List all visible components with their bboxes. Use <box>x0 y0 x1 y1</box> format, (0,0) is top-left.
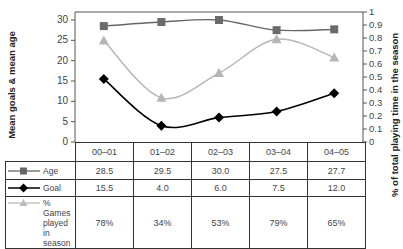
data-table: 00–01 01–02 02–03 03–04 04–05 Age 28.5 2… <box>5 142 366 249</box>
right-tick-label: 0.8 <box>369 33 393 43</box>
table-header-cell: 04–05 <box>308 143 366 162</box>
table-cell: 7.5 <box>250 180 308 197</box>
square-marker-icon <box>8 166 40 176</box>
table-cell: 12.0 <box>308 180 366 197</box>
table-cell: 78% <box>76 197 134 249</box>
table-cell: 30.0 <box>192 162 250 180</box>
right-tick-label: 0 <box>369 137 393 147</box>
table-header-cell: 03–04 <box>250 143 308 162</box>
legend-entry-games: % Games played in season <box>6 197 76 249</box>
right-tick-label: 0.6 <box>369 59 393 69</box>
table-header-cell: 01–02 <box>134 143 192 162</box>
table-cell: 79% <box>250 197 308 249</box>
left-tick-label: 25 <box>48 35 68 45</box>
table-row-games: % Games played in season 78% 34% 53% 79%… <box>6 197 366 249</box>
table-cell: 65% <box>308 197 366 249</box>
left-tick-label: 20 <box>48 56 68 66</box>
legend-entry-age: Age <box>6 162 76 180</box>
right-tick-label: 1 <box>369 7 393 17</box>
right-tick-label: 0.9 <box>369 20 393 30</box>
left-tick-label: 30 <box>48 15 68 25</box>
left-tick-label: 5 <box>48 117 68 127</box>
table-header-cell: 02–03 <box>192 143 250 162</box>
right-tick-label: 0.3 <box>369 98 393 108</box>
table-cell: 34% <box>134 197 192 249</box>
right-tick-label: 0.1 <box>369 124 393 134</box>
legend-entry-goal: Goal <box>6 180 76 197</box>
table-header-row: 00–01 01–02 02–03 03–04 04–05 <box>6 143 366 162</box>
legend-label: % Games played in season <box>43 198 75 248</box>
table-cell: 53% <box>192 197 250 249</box>
triangle-marker-icon <box>8 198 40 208</box>
legend-label: Age <box>43 166 58 176</box>
legend-label: Goal <box>43 183 61 193</box>
right-tick-label: 0.5 <box>369 72 393 82</box>
left-tick-label: 10 <box>48 96 68 106</box>
left-tick-label: 15 <box>48 76 68 86</box>
table-cell: 28.5 <box>76 162 134 180</box>
right-tick-label: 0.7 <box>369 46 393 56</box>
right-tick-label: 0.2 <box>369 111 393 121</box>
table-cell: 4.0 <box>134 180 192 197</box>
table-cell: 29.5 <box>134 162 192 180</box>
table-header-cell: 00–01 <box>76 143 134 162</box>
left-axis-title: Mean goals & mean age <box>6 20 20 150</box>
table-cell: 27.7 <box>308 162 366 180</box>
table-row-age: Age 28.5 29.5 30.0 27.5 27.7 <box>6 162 366 180</box>
table-corner <box>6 143 76 162</box>
diamond-marker-icon <box>8 183 40 193</box>
table-row-goal: Goal 15.5 4.0 6.0 7.5 12.0 <box>6 180 366 197</box>
table-cell: 6.0 <box>192 180 250 197</box>
table-cell: 27.5 <box>250 162 308 180</box>
table-cell: 15.5 <box>76 180 134 197</box>
right-tick-label: 0.4 <box>369 85 393 95</box>
